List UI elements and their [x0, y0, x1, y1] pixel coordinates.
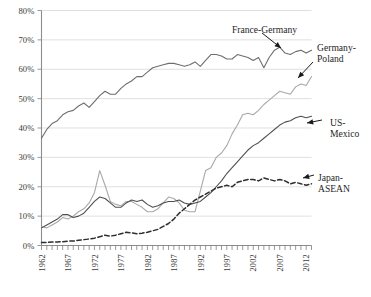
x-tick-label-1992: 1992: [197, 254, 206, 272]
annotation-germany-poland: Germany-Poland: [298, 42, 356, 78]
y-tick-label-80: 80%: [18, 6, 34, 16]
y-tick-label-40: 40%: [18, 123, 34, 133]
x-tick-label-1967: 1967: [64, 254, 73, 272]
y-tick-label-30: 30%: [18, 152, 34, 162]
x-axis-tick-labels: 1962196719721977198219871992199720022007…: [38, 254, 312, 272]
x-tick-label-1997: 1997: [223, 254, 232, 272]
x-tick-label-1982: 1982: [144, 254, 153, 272]
annotation-us-mexico: US-Mexico: [307, 117, 360, 139]
y-tick-label-10: 10%: [18, 211, 34, 221]
annotations-group: France-GermanyGermany-PolandUS-MexicoJap…: [232, 24, 360, 194]
series-line-us-mexico: [42, 116, 312, 228]
y-axis: [38, 11, 42, 246]
annotation-france-germany: France-Germany: [232, 24, 297, 48]
y-tick-label-60: 60%: [18, 64, 34, 74]
x-tick-label-2007: 2007: [276, 254, 285, 272]
x-tick-label-1977: 1977: [117, 254, 126, 272]
annotation-japan-asean: Japan-ASEAN: [303, 172, 350, 194]
y-tick-label-20: 20%: [18, 182, 34, 192]
x-tick-label-1987: 1987: [170, 254, 179, 272]
annotation-label-germany-poland-line1: Germany-: [317, 42, 356, 53]
annotation-label-germany-poland-line2: Poland: [317, 53, 344, 64]
x-tick-label-1962: 1962: [38, 254, 47, 272]
chart-container: 0%10%20%30%40%50%60%70%80% 1962196719721…: [0, 0, 371, 297]
annotation-label-us-mexico-line2: Mexico: [330, 128, 360, 139]
y-tick-label-50: 50%: [18, 94, 34, 104]
annotation-label-japan-asean-line2: ASEAN: [318, 183, 350, 194]
y-axis-tick-labels: 0%10%20%30%40%50%60%70%80%: [18, 6, 34, 251]
data-series-group: [42, 47, 312, 242]
x-tick-label-2002: 2002: [249, 254, 258, 272]
line-chart: 0%10%20%30%40%50%60%70%80% 1962196719721…: [0, 0, 371, 297]
gridlines: [42, 11, 312, 217]
x-axis: [42, 246, 312, 251]
annotation-arrowhead-us-mexico: [307, 119, 314, 124]
y-tick-label-70: 70%: [18, 35, 34, 45]
x-tick-label-2012: 2012: [302, 254, 311, 272]
annotation-label-us-mexico-line1: US-: [330, 117, 345, 128]
series-line-germany-poland: [42, 77, 312, 228]
annotation-label-japan-asean-line1: Japan-: [318, 172, 343, 183]
x-tick-label-1972: 1972: [91, 254, 100, 272]
y-tick-label-0: 0%: [23, 241, 35, 251]
annotation-arrowhead-france-germany: [274, 42, 281, 48]
annotation-label-france-germany: France-Germany: [232, 24, 297, 35]
series-line-france-germany: [42, 47, 312, 138]
